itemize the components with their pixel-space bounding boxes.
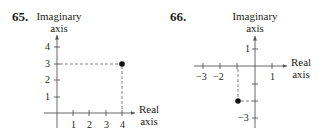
c66-guides: [238, 69, 252, 101]
c66-axes: [194, 36, 287, 128]
c65-guides: [60, 64, 122, 110]
c65-point: [119, 61, 125, 67]
c65-axes: [44, 35, 135, 128]
plot-canvas: [0, 0, 323, 137]
c66-point: [235, 98, 241, 104]
